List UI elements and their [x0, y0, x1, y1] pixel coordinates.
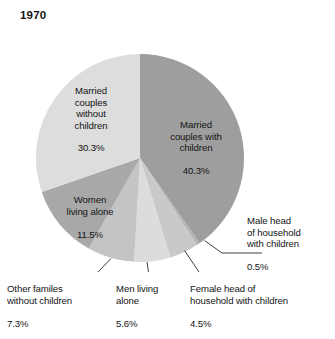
- slice-label-men-living-alone: Men living alone 5.6%: [116, 272, 182, 329]
- leader-line-other-families: [98, 259, 111, 273]
- pie-chart-figure: 1970 Married couples with children 40.3%…: [0, 0, 335, 339]
- slice-label-other-familes-without-children: Other familes without children 7.3%: [7, 272, 117, 329]
- slice-value-text: 0.5%: [247, 261, 268, 272]
- slice-value-text: 7.3%: [7, 318, 28, 329]
- slice-label-text: Men living alone: [116, 283, 158, 305]
- slice-label-women-living-alone: Women living alone 11.5%: [44, 183, 136, 240]
- slice-label-married-couples-with-children: Married couples with children 40.3%: [157, 108, 235, 176]
- slice-label-text: Women living alone: [67, 194, 114, 216]
- slice-label-married-couples-without-children: Married couples without children 30.3%: [53, 74, 129, 154]
- slice-value-text: 5.6%: [116, 318, 137, 329]
- slice-value-text: 30.3%: [78, 142, 105, 153]
- slice-label-text: Female head of household with children: [190, 283, 288, 305]
- slice-value-text: 11.5%: [77, 229, 103, 240]
- slice-value-text: 4.5%: [190, 318, 211, 329]
- slice-label-female-head-of-household-with-children: Female head of household with children 4…: [190, 272, 318, 329]
- slice-label-text: Married couples with children: [170, 119, 222, 153]
- slice-label-text: Married couples without children: [75, 85, 108, 130]
- slice-label-text: Other familes without children: [7, 283, 72, 305]
- slice-value-text: 40.3%: [183, 165, 210, 176]
- leader-line-female-head: [185, 251, 200, 273]
- slice-label-text: Male head of household with children: [247, 215, 301, 249]
- leader-line-men-alone: [147, 262, 149, 272]
- slice-label-male-head-of-household-with-children: Male head of household with children 0.5…: [247, 204, 333, 272]
